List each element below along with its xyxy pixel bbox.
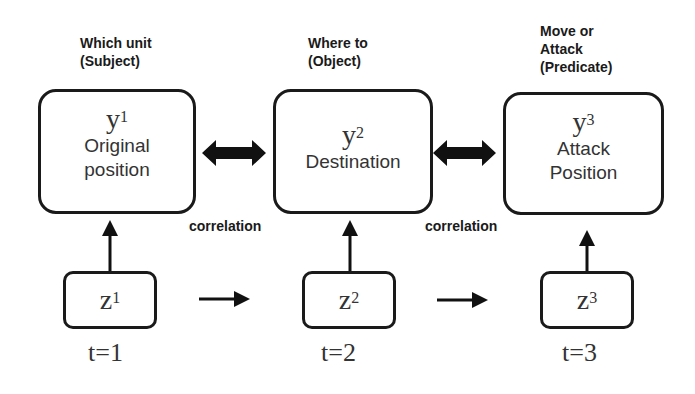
correlation-label-1: correlation — [189, 218, 261, 234]
correlation-label-2: correlation — [425, 218, 497, 234]
time-label-3: t=3 — [562, 338, 597, 368]
z2-node: z2 — [302, 271, 396, 329]
up-arrow-z1-y1-icon — [102, 220, 118, 236]
up-arrow-z3-y3-icon — [579, 230, 595, 246]
double-arrow-y2-y3-icon — [433, 140, 496, 166]
double-arrow-y1-y2-icon — [202, 140, 266, 166]
z1-variable: z1 — [66, 285, 154, 315]
z2-variable: z2 — [305, 285, 393, 315]
time-label-2: t=2 — [321, 338, 356, 368]
z1-node: z1 — [63, 271, 157, 329]
up-arrow-z2-y2-icon — [342, 220, 358, 236]
z3-node: z3 — [540, 271, 634, 329]
z3-variable: z3 — [543, 285, 631, 315]
arrows-layer — [0, 0, 695, 394]
right-arrow-z1-z2-icon — [234, 291, 250, 307]
right-arrow-z2-z3-icon — [472, 292, 488, 308]
time-label-1: t=1 — [88, 338, 123, 368]
